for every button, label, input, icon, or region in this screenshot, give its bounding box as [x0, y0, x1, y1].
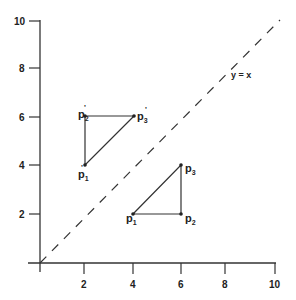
point-p1-prime [83, 163, 87, 167]
y-tick-label-4: 4 [19, 160, 25, 171]
coordinate-diagram: 10 8 6 4 2 2 4 6 8 10 y = x p1 p2 p3 p1 … [0, 0, 296, 300]
x-axis-ticks [84, 263, 275, 274]
y-tick-label-10: 10 [14, 16, 26, 27]
prime-mark-p2: ' [84, 103, 86, 112]
label-p3: p3 [185, 162, 196, 176]
triangle-reflected [83, 114, 136, 167]
prime-mark-p3: ' [145, 105, 147, 114]
x-tick-label-4: 4 [130, 279, 136, 290]
point-p3 [179, 163, 183, 167]
point-p3-prime [132, 114, 136, 118]
y-tick-label-6: 6 [19, 112, 25, 123]
x-tick-label-6: 6 [178, 279, 184, 290]
x-tick-label-10: 10 [269, 279, 281, 290]
point-p2 [179, 212, 183, 216]
x-tick-label-8: 8 [222, 279, 228, 290]
label-p1-prime: p1 [78, 168, 89, 182]
label-p2: p2 [185, 212, 196, 226]
reflection-line-y-equals-x [40, 20, 280, 263]
x-tick-label-2: 2 [81, 279, 87, 290]
triangle-original [131, 163, 183, 216]
line-label: y = x [231, 70, 251, 80]
prime-mark-p1: ' [81, 163, 83, 172]
y-tick-label-8: 8 [19, 63, 25, 74]
y-tick-label-2: 2 [19, 209, 25, 220]
y-axis-ticks [29, 21, 40, 214]
